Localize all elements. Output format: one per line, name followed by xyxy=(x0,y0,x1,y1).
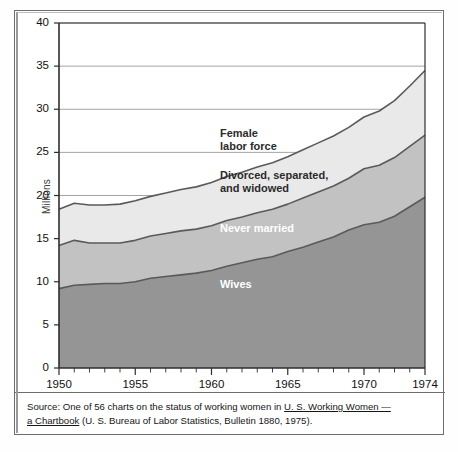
x-axis-ticks xyxy=(59,368,425,375)
source-note-text-a: One of 56 charts on the status of workin… xyxy=(63,401,282,412)
source-note-prefix: Source: xyxy=(27,401,60,412)
y-tick-label: 35 xyxy=(21,59,49,71)
source-note-title-part2: a Chartbook xyxy=(27,415,79,426)
figure-frame: Millions 0510152025303540 19501955196019… xyxy=(14,10,444,435)
source-note: Source: One of 56 charts on the status o… xyxy=(15,392,445,436)
chart-region: Millions 0510152025303540 19501955196019… xyxy=(15,11,445,392)
x-tick-label: 1965 xyxy=(265,378,311,390)
series-label-wives-text: Wives xyxy=(220,278,252,291)
y-tick-label: 15 xyxy=(21,232,49,244)
x-tick-label: 1950 xyxy=(36,378,82,390)
y-tick-label: 40 xyxy=(21,16,49,28)
y-tick-label: 20 xyxy=(21,189,49,201)
figure-page: Millions 0510152025303540 19501955196019… xyxy=(0,0,458,452)
series-label-female-labor-force: Female labor force xyxy=(220,127,277,153)
series-label-never-married-text: Never married xyxy=(220,222,294,235)
y-tick-label: 10 xyxy=(21,275,49,287)
x-tick-label: 1970 xyxy=(341,378,387,390)
y-tick-label: 0 xyxy=(21,361,49,373)
x-tick-label: 1960 xyxy=(189,378,235,390)
y-tick-label: 30 xyxy=(21,102,49,114)
series-label-divorced-separated-widowed-line1: Divorced, separated, xyxy=(220,169,328,182)
stacked-area-chart xyxy=(15,11,445,392)
source-note-title-part1: U. S. Working Women — xyxy=(284,401,391,412)
y-tick-label: 5 xyxy=(21,318,49,330)
series-label-wives: Wives xyxy=(220,278,252,291)
series-label-divorced-separated-widowed: Divorced, separated, and widowed xyxy=(220,169,328,195)
source-note-text-b: (U. S. Bureau of Labor Statistics, Bulle… xyxy=(82,415,312,426)
series-label-never-married: Never married xyxy=(220,222,294,235)
series-label-female-labor-force-line1: Female xyxy=(220,127,277,140)
x-tick-label: 1955 xyxy=(112,378,158,390)
series-label-divorced-separated-widowed-line2: and widowed xyxy=(220,182,328,195)
y-tick-label: 25 xyxy=(21,145,49,157)
x-tick-label: 1974 xyxy=(402,378,448,390)
series-label-female-labor-force-line2: labor force xyxy=(220,140,277,153)
